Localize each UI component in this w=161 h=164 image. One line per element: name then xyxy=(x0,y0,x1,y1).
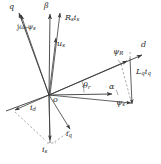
psi-s-label: ψs xyxy=(116,99,125,107)
q-axis-label: q xyxy=(9,3,14,11)
Rs-is-sub-s2: s xyxy=(76,16,79,22)
Rs-is-vector xyxy=(50,13,60,95)
is-vector xyxy=(49,95,50,140)
psi-R-label: ψR xyxy=(113,48,123,56)
iq-label: iq xyxy=(66,130,72,138)
is-label: is xyxy=(42,146,47,154)
flux-construction-dashes xyxy=(121,64,131,101)
us-vector xyxy=(49,38,56,95)
psi-s-sub: s xyxy=(122,101,125,107)
id-label: id xyxy=(30,104,36,112)
jwr-psi-s-sub-s: s xyxy=(33,25,36,31)
theta-r-label: θr xyxy=(83,82,90,90)
jwr-psi-s-label: jωrψs xyxy=(17,24,36,31)
current-parallelogram-dashes xyxy=(15,112,70,143)
us-sub-s: s xyxy=(62,42,65,48)
psi-R-sub: R xyxy=(119,50,123,56)
alpha-axis-line xyxy=(49,94,112,95)
alpha-arc xyxy=(116,90,118,95)
alpha-angle-label: α xyxy=(109,83,114,91)
Lq-iq-vector xyxy=(130,50,132,104)
id-sub-d: d xyxy=(33,106,37,112)
iq-sub-q: q xyxy=(69,132,73,138)
is-sub-s: s xyxy=(45,148,48,154)
us-label: us xyxy=(57,40,65,48)
d-axis-label: d xyxy=(141,41,146,49)
Lq-iq-label: Lqiq xyxy=(136,68,151,76)
theta-r-sub: r xyxy=(88,84,91,90)
beta-axis-label: β xyxy=(44,2,49,10)
Lq-iq-sub-q2: q xyxy=(147,70,151,76)
phasor-diagram-figure: q β d jωrψs Rsis us ψR ψs Lqiq θr α o id… xyxy=(0,0,161,164)
origin-label: o xyxy=(53,96,58,104)
Rs-is-label: Rsis xyxy=(65,14,79,22)
